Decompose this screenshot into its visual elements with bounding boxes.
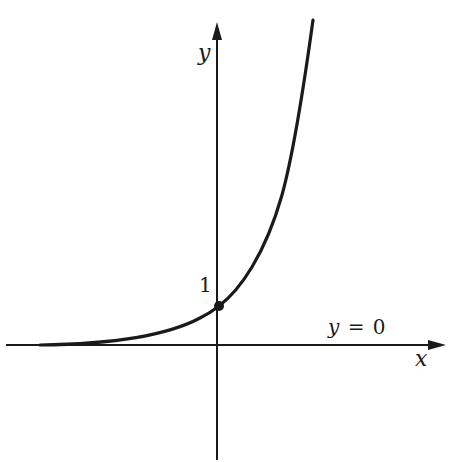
y-intercept-label: 1 (199, 273, 212, 297)
asymptote-eq: = (348, 315, 365, 339)
y-axis-label: y (197, 40, 211, 65)
graph-canvas: y x 1 y = 0 (0, 0, 449, 462)
x-axis-label: x (415, 346, 428, 371)
y-intercept-point (214, 301, 224, 311)
asymptote-lhs: y (327, 315, 340, 339)
y-axis-arrow-icon (212, 22, 222, 40)
exponential-curve (40, 20, 313, 345)
asymptote-label: y = 0 (327, 315, 386, 339)
asymptote-rhs: 0 (373, 315, 386, 339)
x-axis-arrow-icon (428, 340, 446, 350)
